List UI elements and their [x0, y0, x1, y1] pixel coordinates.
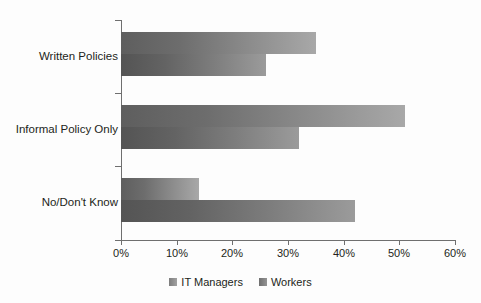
x-axis-tick [121, 240, 122, 245]
x-axis-tick [344, 240, 345, 245]
bar-it-managers-informal-policy-only[interactable] [121, 105, 405, 127]
bar-it-managers-no-dont-know[interactable] [121, 178, 199, 200]
chart-legend: IT Managers Workers [0, 276, 481, 288]
x-tick-label: 30% [268, 247, 308, 259]
category-label-text: Written Policies [6, 50, 118, 63]
x-tick-label: 50% [379, 247, 419, 259]
x-axis-tick [399, 240, 400, 245]
legend-label: IT Managers [181, 276, 243, 288]
legend-swatch-icon [259, 278, 267, 286]
bar-chart: Written Policies Informal Policy Only No… [0, 0, 481, 303]
category-label-text: Informal Policy Only [6, 123, 118, 136]
x-axis-tick [455, 240, 456, 245]
bar-it-managers-written-policies[interactable] [121, 32, 316, 54]
legend-item-it-managers[interactable]: IT Managers [169, 276, 243, 288]
plot-area [121, 20, 455, 240]
legend-swatch-icon [169, 278, 177, 286]
x-tick-label: 40% [324, 247, 364, 259]
x-tick-label: 10% [157, 247, 197, 259]
x-tick-label: 60% [435, 247, 475, 259]
x-tick-label: 0% [101, 247, 141, 259]
bar-workers-informal-policy-only[interactable] [121, 127, 299, 149]
category-label-text: No/Don't Know [6, 196, 118, 209]
bar-workers-written-policies[interactable] [121, 54, 266, 76]
legend-item-workers[interactable]: Workers [259, 276, 312, 288]
x-tick-label: 20% [212, 247, 252, 259]
legend-label: Workers [271, 276, 312, 288]
x-axis-tick [232, 240, 233, 245]
x-axis-tick [288, 240, 289, 245]
x-axis-tick [177, 240, 178, 245]
bar-workers-no-dont-know[interactable] [121, 200, 355, 222]
